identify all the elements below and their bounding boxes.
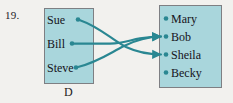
codomain-member-bob: Bob — [171, 31, 191, 43]
codomain-member-becky: Becky — [171, 67, 202, 79]
domain-member-bill: Bill — [47, 38, 65, 50]
domain-member-sue: Sue — [47, 14, 65, 26]
codomain-member-sheila: Sheila — [171, 49, 201, 61]
problem-number: 19. — [5, 9, 19, 21]
codomain-member-mary: Mary — [171, 13, 197, 25]
domain-set-label: D — [64, 85, 73, 100]
relation-arrow-diagram: 19. Sue Bill Steve Mary Bob Sheila Becky… — [0, 0, 233, 103]
domain-member-steve: Steve — [47, 62, 74, 74]
